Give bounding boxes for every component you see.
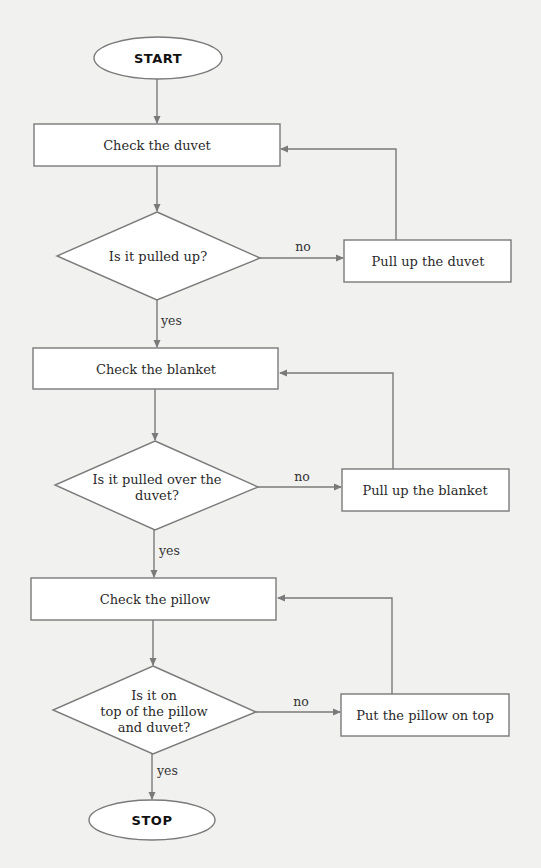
decision-pulled-up: Is it pulled up? xyxy=(57,212,260,300)
action-label: Put the pillow on top xyxy=(356,708,493,723)
decision-label: Is it pulled up? xyxy=(109,249,207,264)
decision-label-line-2: duvet? xyxy=(135,488,179,503)
action-pull-up-blanket: Pull up the blanket xyxy=(342,469,509,511)
action-pull-up-duvet: Pull up the duvet xyxy=(344,240,511,282)
stop-label: STOP xyxy=(132,813,173,828)
flowchart: START Check the duvet Is it pulled up? n… xyxy=(0,0,541,868)
process-label: Check the blanket xyxy=(96,362,217,377)
yes-label: yes xyxy=(156,763,178,778)
start-label: START xyxy=(134,51,182,66)
process-check-duvet: Check the duvet xyxy=(34,124,280,166)
decision-label-line-1: Is it pulled over the xyxy=(92,472,221,487)
process-check-pillow: Check the pillow xyxy=(31,578,276,620)
decision-pulled-over-duvet: Is it pulled over the duvet? xyxy=(55,441,258,530)
decision-label-line-1: Is it on xyxy=(131,688,177,703)
no-label: no xyxy=(295,239,311,254)
process-label: Check the pillow xyxy=(100,592,210,607)
connector-loop-back xyxy=(281,149,396,240)
decision-label-line-3: and duvet? xyxy=(118,720,191,735)
no-label: no xyxy=(293,694,309,709)
start-terminal: START xyxy=(94,37,222,79)
action-label: Pull up the duvet xyxy=(372,254,486,269)
yes-label: yes xyxy=(158,543,180,558)
action-put-pillow-on-top: Put the pillow on top xyxy=(341,694,509,736)
no-label: no xyxy=(294,469,310,484)
action-label: Pull up the blanket xyxy=(362,483,488,498)
connector-loop-back xyxy=(278,598,392,694)
process-label: Check the duvet xyxy=(103,138,211,153)
decision-label-line-2: top of the pillow xyxy=(100,704,207,719)
yes-label: yes xyxy=(160,313,182,328)
connector-loop-back xyxy=(280,373,393,469)
process-check-blanket: Check the blanket xyxy=(33,348,278,389)
stop-terminal: STOP xyxy=(89,800,215,840)
decision-on-top: Is it on top of the pillow and duvet? xyxy=(53,666,256,754)
